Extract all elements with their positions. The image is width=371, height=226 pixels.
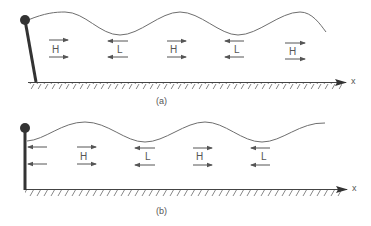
wave-surface: [28, 12, 326, 35]
region-label: L: [145, 151, 151, 162]
region-b-3: L: [135, 148, 155, 165]
pivot-ball: [20, 123, 30, 133]
region-b-1: [28, 147, 47, 164]
region-a-1: H: [49, 40, 68, 57]
region-label: L: [261, 151, 267, 162]
panel-caption: (b): [156, 206, 167, 216]
pole: [25, 20, 36, 82]
x-axis-label: x: [352, 183, 357, 193]
region-label: H: [52, 44, 59, 55]
region-label: L: [234, 44, 240, 55]
region-label: H: [80, 151, 87, 162]
ground-hatching: [25, 190, 343, 196]
region-a-2: L: [108, 41, 128, 57]
wave-surface: [27, 122, 325, 142]
panel-b: x H L H L: [20, 122, 357, 216]
region-a-3: H: [167, 41, 186, 57]
ground-hatching: [28, 83, 342, 89]
panel-a: x H L H L: [20, 12, 356, 106]
region-b-2: H: [77, 147, 96, 164]
pivot-ball: [20, 15, 30, 25]
x-axis-label: x: [351, 76, 356, 86]
region-b-4: H: [193, 148, 212, 165]
diagram-canvas: x H L H L: [0, 0, 371, 226]
region-a-4: L: [225, 41, 244, 57]
region-label: H: [196, 151, 203, 162]
region-label: L: [117, 44, 123, 55]
region-a-5: H: [285, 43, 305, 59]
panel-caption: (a): [156, 96, 167, 106]
region-b-5: L: [251, 148, 270, 165]
region-label: H: [289, 46, 296, 57]
region-label: H: [170, 44, 177, 55]
